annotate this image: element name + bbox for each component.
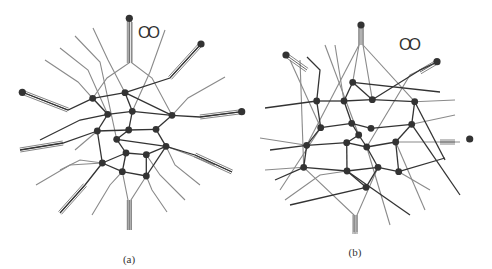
graph-node bbox=[355, 132, 362, 139]
graph-node bbox=[169, 112, 176, 119]
panel-b-graph bbox=[260, 21, 473, 234]
triple-lead-line bbox=[169, 43, 200, 77]
dark-edge bbox=[270, 145, 307, 150]
triple-lead-line bbox=[171, 45, 202, 79]
triple-lead-line bbox=[196, 153, 233, 170]
graph-node bbox=[113, 136, 120, 143]
graph-node bbox=[363, 184, 370, 191]
graph-node bbox=[375, 164, 382, 171]
graph-node bbox=[343, 139, 350, 146]
graph-node bbox=[129, 108, 136, 115]
dark-edge bbox=[22, 92, 93, 110]
gray-edge bbox=[335, 45, 344, 101]
dark-edge bbox=[353, 82, 440, 92]
graph-node bbox=[408, 121, 415, 128]
graph-node bbox=[313, 98, 320, 105]
triple-lead-line bbox=[22, 94, 68, 112]
terminal-dot bbox=[126, 15, 133, 22]
gray-edge bbox=[75, 131, 97, 150]
graph-node bbox=[119, 168, 126, 175]
gray-edge bbox=[146, 155, 185, 200]
terminal-dot bbox=[197, 40, 204, 47]
graph-node bbox=[153, 126, 160, 133]
dark-edge bbox=[412, 124, 460, 195]
graph-node bbox=[303, 142, 310, 149]
graph-node bbox=[143, 173, 150, 180]
graph-node bbox=[123, 150, 130, 157]
terminal-dot bbox=[238, 108, 245, 115]
terminal-dot bbox=[19, 89, 26, 96]
node-edge bbox=[304, 167, 347, 171]
dark-edge bbox=[307, 57, 320, 101]
gray-edge bbox=[172, 77, 225, 115]
dark-edge bbox=[347, 171, 410, 215]
gray-edge bbox=[146, 176, 167, 212]
panel-b-marker-label: OO bbox=[399, 36, 418, 54]
graph-node bbox=[99, 160, 106, 167]
node-edge bbox=[93, 93, 125, 99]
graph-node bbox=[125, 127, 132, 134]
graph-node bbox=[94, 128, 101, 135]
node-edge bbox=[117, 139, 166, 146]
graph-node bbox=[122, 89, 129, 96]
node-edge bbox=[102, 153, 126, 163]
triple-lead-line bbox=[23, 90, 69, 108]
graph-node bbox=[341, 98, 348, 105]
panel-a-graph bbox=[19, 15, 246, 230]
node-edge bbox=[129, 129, 156, 130]
graph-node bbox=[348, 120, 355, 127]
node-edge bbox=[344, 100, 372, 101]
gray-edge bbox=[415, 100, 455, 102]
node-edge bbox=[347, 171, 366, 187]
terminal-dot bbox=[357, 21, 364, 28]
graph-node bbox=[300, 164, 307, 171]
graph-node bbox=[89, 95, 96, 102]
node-edge bbox=[367, 142, 396, 147]
graph-node bbox=[143, 151, 150, 158]
node-edge bbox=[412, 102, 415, 125]
node-edge bbox=[307, 143, 347, 146]
gray-edge bbox=[260, 138, 307, 145]
panel-a-caption: (a) bbox=[123, 253, 135, 265]
terminal-dot bbox=[282, 51, 289, 58]
gray-edge bbox=[307, 45, 359, 145]
node-edge bbox=[321, 123, 352, 127]
gray-edge bbox=[60, 160, 102, 170]
gray-edge bbox=[396, 142, 425, 210]
graph-node bbox=[344, 168, 351, 175]
graph-node bbox=[363, 144, 370, 151]
node-edge bbox=[97, 130, 128, 131]
node-edge bbox=[396, 124, 412, 142]
triple-lead-line bbox=[59, 184, 84, 212]
panel-a-marker-label: OO bbox=[138, 24, 157, 42]
graph-node bbox=[163, 143, 170, 150]
dark-edge bbox=[60, 163, 102, 213]
gray-edge bbox=[363, 28, 372, 100]
graph-node bbox=[317, 124, 324, 131]
figure-canvas bbox=[0, 0, 492, 269]
gray-edge bbox=[357, 167, 378, 232]
graph-node bbox=[369, 96, 376, 103]
panel-b-caption: (b) bbox=[349, 246, 362, 258]
gray-edge bbox=[60, 48, 108, 114]
triple-lead-line bbox=[286, 55, 307, 70]
graph-node bbox=[392, 139, 399, 146]
dark-edge bbox=[265, 101, 317, 108]
graph-node bbox=[395, 168, 402, 175]
triple-lead-line bbox=[194, 157, 231, 174]
node-edge bbox=[371, 124, 412, 128]
terminal-dot bbox=[466, 135, 473, 142]
gray-edge bbox=[290, 60, 321, 128]
node-edge bbox=[122, 172, 146, 176]
graph-node bbox=[368, 125, 375, 132]
gray-edge bbox=[45, 60, 93, 98]
terminal-dot bbox=[433, 58, 440, 65]
gray-edge bbox=[285, 171, 347, 200]
gray-edge bbox=[92, 172, 122, 215]
gray-edge bbox=[36, 163, 102, 185]
gray-edge bbox=[412, 115, 455, 124]
node-edge bbox=[97, 131, 102, 163]
graph-node bbox=[411, 98, 418, 105]
gray-edge bbox=[300, 60, 304, 167]
graph-node bbox=[349, 79, 356, 86]
